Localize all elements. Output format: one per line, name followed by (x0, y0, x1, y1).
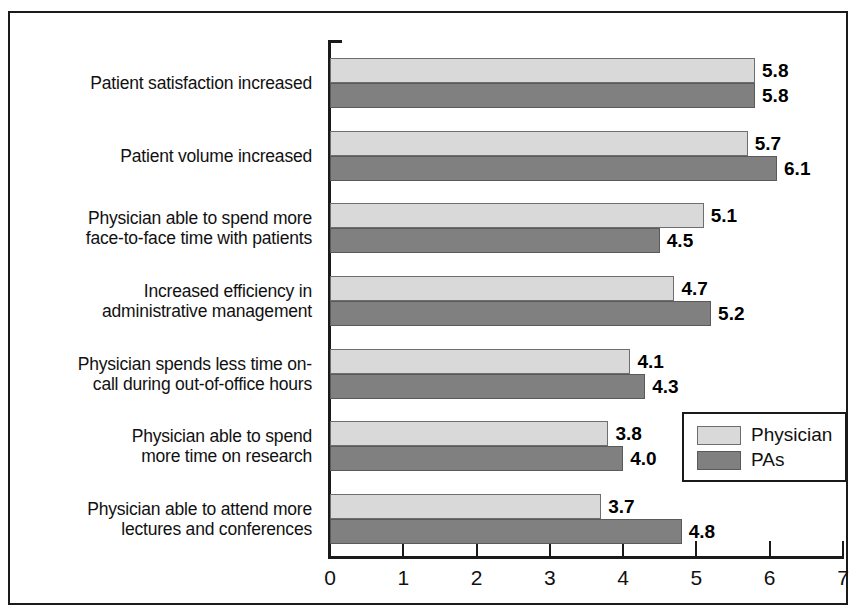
bar-pas (330, 301, 711, 326)
category-label: Physician able to spend more face-to-fac… (86, 208, 312, 248)
category-label: Increased efficiency in administrative m… (102, 281, 312, 321)
bar-pas (330, 83, 755, 108)
bar-physician (330, 494, 601, 519)
x-axis-tick-label: 4 (603, 566, 643, 590)
plot-area: 01234567 Patient satisfaction increasedP… (10, 13, 858, 615)
bar-physician (330, 349, 630, 374)
x-axis-tick (842, 541, 844, 556)
x-axis-tick-label: 3 (530, 566, 570, 590)
bar-value-label: 3.8 (608, 421, 641, 446)
bar-pas (330, 446, 623, 471)
bar-physician (330, 203, 704, 228)
category-label: Physician able to spend more time on res… (132, 426, 312, 466)
category-label: Patient volume increased (120, 146, 312, 166)
bar-value-label: 4.3 (645, 374, 678, 399)
bar-physician (330, 131, 748, 156)
bar-value-label: 6.1 (777, 156, 810, 181)
x-axis-tick-label: 6 (750, 566, 790, 590)
bar-value-label: 4.5 (660, 228, 693, 253)
bar-value-label: 4.0 (623, 446, 656, 471)
x-axis-line (328, 556, 844, 559)
chart-frame: 01234567 Patient satisfaction increasedP… (8, 11, 848, 605)
category-label: Physician able to attend more lectures a… (87, 499, 312, 539)
category-label: Physician spends less time on- call duri… (78, 354, 312, 394)
category-label: Patient satisfaction increased (90, 73, 312, 93)
bar-value-label: 3.7 (601, 494, 634, 519)
bar-value-label: 5.7 (748, 131, 781, 156)
bar-value-label: 5.8 (755, 83, 788, 108)
bar-pas (330, 519, 682, 544)
bar-pas (330, 374, 645, 399)
chart-legend: PhysicianPAs (682, 412, 847, 482)
x-axis-tick-label: 5 (676, 566, 716, 590)
legend-swatch-light (697, 426, 741, 445)
bar-pas (330, 156, 777, 181)
bar-physician (330, 58, 755, 83)
x-axis-tick-label: 7 (823, 566, 858, 590)
bar-value-label: 5.1 (704, 203, 737, 228)
legend-label: Physician (751, 424, 832, 446)
bar-value-label: 4.7 (674, 276, 707, 301)
bar-physician (330, 276, 674, 301)
bar-pas (330, 228, 660, 253)
legend-swatch-dark (697, 451, 741, 470)
bar-value-label: 4.1 (630, 349, 663, 374)
bar-physician (330, 421, 608, 446)
x-axis-tick (769, 541, 771, 556)
bar-value-label: 4.8 (682, 519, 715, 544)
x-axis-tick-label: 0 (310, 566, 350, 590)
bar-value-label: 5.8 (755, 58, 788, 83)
bar-value-label: 5.2 (711, 301, 744, 326)
x-axis-tick-label: 1 (383, 566, 423, 590)
legend-label: PAs (751, 449, 784, 471)
x-axis-tick-label: 2 (457, 566, 497, 590)
